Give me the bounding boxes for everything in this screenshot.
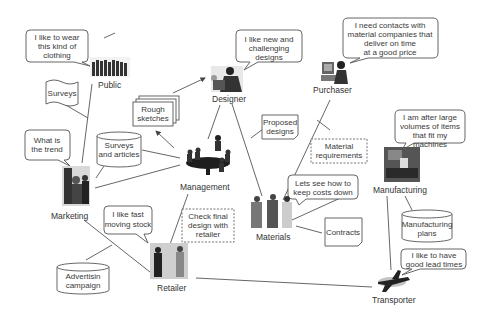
actor-label-retailer: Retailer bbox=[157, 283, 186, 293]
svg-text:keep costs down: keep costs down bbox=[293, 188, 353, 197]
speech-bubble-materials: Lets see how to keep costs down bbox=[288, 175, 358, 205]
document-rough-sketches: Rough sketches bbox=[133, 96, 179, 126]
box-material-requirements: Material requirements bbox=[311, 139, 367, 163]
actor-label-materials: Materials bbox=[256, 232, 290, 242]
svg-text:Check final: Check final bbox=[188, 212, 228, 221]
svg-text:challenging: challenging bbox=[249, 44, 289, 53]
svg-text:I like new and: I like new and bbox=[245, 35, 294, 44]
svg-text:deliver on time: deliver on time bbox=[364, 39, 417, 48]
svg-text:design with: design with bbox=[188, 221, 228, 230]
svg-text:plans: plans bbox=[417, 229, 436, 238]
svg-text:sketches: sketches bbox=[137, 114, 169, 123]
svg-text:Proposed: Proposed bbox=[263, 118, 297, 127]
actor-label-transporter: Transporter bbox=[372, 295, 416, 305]
public-crowd-icon bbox=[90, 57, 130, 77]
designer-icon bbox=[211, 66, 243, 92]
database-surveys-articles: Surveys and articles bbox=[97, 132, 141, 167]
database-advertising-campaign: Advertisin campaign bbox=[57, 263, 109, 294]
actor-label-designer: Designer bbox=[212, 94, 246, 104]
purchaser-computer-icon bbox=[321, 61, 348, 84]
document-contracts: Contracts bbox=[325, 218, 362, 246]
svg-text:material companies that: material companies that bbox=[348, 30, 434, 39]
speech-bubble-transporter: I like to have good lead times bbox=[401, 249, 466, 275]
speech-bubble-purchaser: I need contacts with material companies … bbox=[343, 18, 438, 63]
svg-text:designs: designs bbox=[255, 53, 283, 62]
svg-text:requirements: requirements bbox=[316, 151, 363, 160]
svg-text:What is: What is bbox=[34, 136, 61, 145]
svg-text:I need contacts with: I need contacts with bbox=[355, 21, 426, 30]
svg-text:Manufacturing: Manufacturing bbox=[402, 220, 453, 229]
svg-text:retailer: retailer bbox=[196, 230, 221, 239]
svg-text:Contracts: Contracts bbox=[326, 228, 360, 237]
speech-bubble-retailer: I like fast moving stock bbox=[104, 206, 152, 243]
svg-text:moving stock: moving stock bbox=[105, 220, 153, 229]
database-manufacturing-plans: Manufacturing plans bbox=[402, 210, 453, 242]
svg-text:Material: Material bbox=[325, 142, 354, 151]
marketing-photo bbox=[62, 166, 90, 206]
management-meeting-icon bbox=[186, 135, 231, 175]
svg-text:good lead times: good lead times bbox=[406, 260, 462, 269]
actor-label-public: Public bbox=[98, 80, 122, 90]
speech-bubble-public: I like to wear this kind of clothing bbox=[26, 30, 90, 66]
svg-text:Rough: Rough bbox=[141, 105, 165, 114]
document-surveys: Surveys bbox=[46, 80, 78, 106]
svg-text:at a good price: at a good price bbox=[364, 48, 417, 57]
svg-text:Surveys: Surveys bbox=[48, 89, 77, 98]
materials-people-icon bbox=[251, 194, 292, 228]
actor-label-management: Management bbox=[180, 182, 230, 192]
document-proposed-designs: Proposed designs bbox=[262, 115, 298, 139]
svg-text:campaign: campaign bbox=[66, 281, 101, 290]
svg-text:I like to have: I like to have bbox=[412, 251, 457, 260]
svg-text:I am after large: I am after large bbox=[403, 113, 457, 122]
actor-label-marketing: Marketing bbox=[51, 211, 89, 221]
retailer-photo bbox=[150, 243, 188, 279]
svg-text:and articles: and articles bbox=[99, 150, 140, 159]
svg-text:that fit my: that fit my bbox=[413, 131, 448, 140]
svg-text:Surveys: Surveys bbox=[105, 141, 134, 150]
svg-text:Advertisin: Advertisin bbox=[65, 272, 100, 281]
svg-text:clothing: clothing bbox=[43, 51, 71, 60]
svg-text:this kind of: this kind of bbox=[38, 42, 77, 51]
actor-label-purchaser: Purchaser bbox=[313, 85, 352, 95]
svg-text:I like to wear: I like to wear bbox=[35, 33, 80, 42]
speech-bubble-manufacturing: I am after large volumes of items that f… bbox=[395, 110, 465, 150]
svg-text:I like fast: I like fast bbox=[112, 210, 144, 219]
svg-text:Lets see how to: Lets see how to bbox=[295, 179, 352, 188]
actor-label-manufacturing: Manufacturing bbox=[373, 185, 427, 195]
svg-text:the trend: the trend bbox=[31, 145, 63, 154]
svg-text:designs: designs bbox=[266, 127, 294, 136]
speech-bubble-marketing: What is the trend bbox=[25, 130, 70, 166]
manufacturing-photo bbox=[384, 147, 420, 182]
speech-bubble-designer: I like new and challenging designs bbox=[236, 30, 302, 70]
stakeholder-diagram: I like to wear this kind of clothing I l… bbox=[0, 0, 489, 316]
box-check-final-design: Check final design with retailer bbox=[182, 209, 234, 242]
svg-text:volumes of items: volumes of items bbox=[400, 122, 460, 131]
